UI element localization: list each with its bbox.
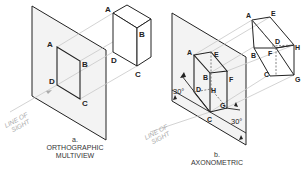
caption-a-line1: ORTHOGRAPHIC (46, 144, 103, 151)
label-a-object-b: A (246, 12, 251, 19)
label-b-object: B (139, 30, 145, 39)
panel-orthographic: A B C D A B C D LINE OF SIGHT a. ORTHOGR… (3, 5, 151, 159)
label-d-object: D (111, 56, 117, 65)
caption-a-line2: MULTIVIEW (56, 152, 95, 159)
caption-b-line1: AXONOMETRIC (191, 159, 243, 166)
panel-axonometric: A B C D E F G H A B C D E F G H 30° 30° … (143, 10, 301, 166)
label-c-plane-b: C (207, 116, 212, 123)
caption-letter-b: b. (214, 151, 220, 158)
label-c-object: C (135, 70, 141, 79)
label-b-object-b: B (251, 52, 256, 59)
label-g-plane-b: G (220, 102, 226, 109)
label-h-plane-b: H (211, 87, 216, 94)
label-a-plane-b: A (187, 49, 192, 56)
label-f-plane-b: F (229, 76, 234, 83)
label-d-plane-b: D (196, 86, 201, 93)
label-c-plane: C (82, 99, 88, 108)
label-c-object-b: C (264, 71, 269, 78)
angle-label-left: 30° (173, 87, 184, 96)
label-a-object: A (105, 5, 111, 14)
object-box-b (252, 17, 294, 76)
projection-diagram: A B C D A B C D LINE OF SIGHT a. ORTHOGR… (0, 0, 301, 170)
label-d-plane: D (49, 77, 55, 86)
label-d-object-b: D (275, 38, 280, 45)
label-b-plane-b: B (203, 74, 208, 81)
projection-plane-a (32, 6, 106, 140)
label-a-plane: A (47, 40, 53, 49)
label-h-object-b: H (295, 44, 300, 51)
angle-label-right: 30° (231, 117, 242, 126)
label-g-object-b: G (295, 76, 301, 83)
label-e-object-b: E (271, 10, 276, 17)
object-box-a (113, 5, 151, 66)
label-b-plane: B (82, 60, 88, 69)
caption-letter-a: a. (72, 136, 78, 143)
label-f-object-b: F (268, 50, 273, 57)
label-e-plane-b: E (214, 51, 219, 58)
